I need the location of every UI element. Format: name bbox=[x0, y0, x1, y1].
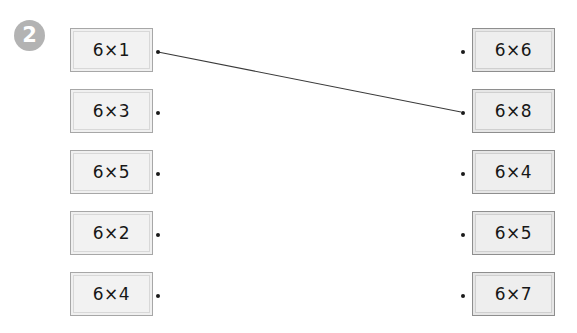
right-card-3[interactable]: 6×5 bbox=[472, 211, 555, 255]
right-dot-2[interactable] bbox=[461, 172, 465, 176]
left-card-4-inner: 6×4 bbox=[73, 275, 150, 313]
left-card-2-inner: 6×5 bbox=[73, 153, 150, 191]
question-number-badge: 2 bbox=[14, 20, 45, 51]
left-card-4[interactable]: 6×4 bbox=[70, 272, 153, 316]
right-card-1-expression: 6×8 bbox=[495, 101, 532, 121]
worksheet-canvas: 2 6×1 6×3 6×5 6×2 6×4 6×6 bbox=[0, 0, 577, 333]
right-card-3-expression: 6×5 bbox=[495, 223, 532, 243]
left-card-3-expression: 6×2 bbox=[93, 223, 130, 243]
right-card-3-inner: 6×5 bbox=[475, 214, 552, 252]
left-card-3[interactable]: 6×2 bbox=[70, 211, 153, 255]
right-card-0-expression: 6×6 bbox=[495, 40, 532, 60]
right-card-1-inner: 6×8 bbox=[475, 92, 552, 130]
right-card-2-expression: 6×4 bbox=[495, 162, 532, 182]
left-dot-2[interactable] bbox=[156, 172, 160, 176]
match-line[interactable] bbox=[158, 52, 461, 112]
right-dot-4[interactable] bbox=[461, 294, 465, 298]
right-dot-0[interactable] bbox=[461, 50, 465, 54]
left-card-0-expression: 6×1 bbox=[93, 40, 130, 60]
left-dot-0[interactable] bbox=[156, 50, 160, 54]
right-card-4-inner: 6×7 bbox=[475, 275, 552, 313]
right-card-2[interactable]: 6×4 bbox=[472, 150, 555, 194]
left-card-0-inner: 6×1 bbox=[73, 31, 150, 69]
left-card-1-inner: 6×3 bbox=[73, 92, 150, 130]
right-card-0[interactable]: 6×6 bbox=[472, 28, 555, 72]
right-card-0-inner: 6×6 bbox=[475, 31, 552, 69]
right-card-1[interactable]: 6×8 bbox=[472, 89, 555, 133]
left-card-4-expression: 6×4 bbox=[93, 284, 130, 304]
left-card-3-inner: 6×2 bbox=[73, 214, 150, 252]
left-dot-4[interactable] bbox=[156, 294, 160, 298]
left-card-1[interactable]: 6×3 bbox=[70, 89, 153, 133]
left-card-1-expression: 6×3 bbox=[93, 101, 130, 121]
right-dot-1[interactable] bbox=[461, 111, 465, 115]
right-card-2-inner: 6×4 bbox=[475, 153, 552, 191]
left-card-2[interactable]: 6×5 bbox=[70, 150, 153, 194]
right-dot-3[interactable] bbox=[461, 233, 465, 237]
left-card-2-expression: 6×5 bbox=[93, 162, 130, 182]
left-dot-3[interactable] bbox=[156, 233, 160, 237]
right-card-4-expression: 6×7 bbox=[495, 284, 532, 304]
right-card-4[interactable]: 6×7 bbox=[472, 272, 555, 316]
left-dot-1[interactable] bbox=[156, 111, 160, 115]
left-card-0[interactable]: 6×1 bbox=[70, 28, 153, 72]
